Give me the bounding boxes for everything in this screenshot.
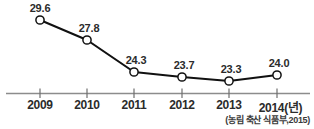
data-point bbox=[273, 71, 281, 79]
data-point-label: 23.3 bbox=[221, 63, 242, 75]
data-point bbox=[130, 68, 138, 76]
data-point-label: 29.6 bbox=[30, 2, 51, 14]
source-note: (농림 축산 식품부,2015) bbox=[225, 113, 310, 126]
data-point bbox=[225, 77, 233, 85]
data-point bbox=[83, 36, 91, 44]
data-point-label: 23.7 bbox=[174, 59, 195, 71]
x-tick-label-2013: 2013 bbox=[216, 98, 242, 112]
data-point bbox=[36, 16, 44, 24]
x-tick-label-2009: 2009 bbox=[27, 98, 53, 112]
data-point-label: 24.0 bbox=[269, 57, 290, 69]
x-tick-label-2010: 2010 bbox=[74, 98, 100, 112]
line-chart: 29.6 27.8 24.3 23.7 23.3 24.0 2009 2010 … bbox=[0, 0, 314, 129]
x-tick-label-2011: 2011 bbox=[122, 98, 147, 112]
data-point bbox=[178, 73, 186, 81]
data-point-label: 27.8 bbox=[79, 22, 100, 34]
data-point-label: 24.3 bbox=[126, 54, 147, 66]
x-tick-label-2012: 2012 bbox=[169, 98, 195, 112]
